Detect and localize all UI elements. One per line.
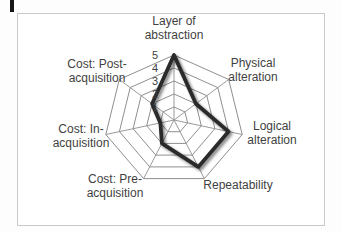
data-series <box>152 55 229 167</box>
axis-label-line: Cost: In- <box>53 123 110 137</box>
tick-label: 2 <box>139 88 158 100</box>
axis-label-cost-in-acquisition: Cost: In- acquisition <box>53 123 110 150</box>
axis-label-line: alteration <box>247 134 296 148</box>
axis-label-repeatability: Repeatability <box>203 179 272 193</box>
axis-label-line: Physical <box>228 57 277 71</box>
data-series-polygon <box>152 55 229 167</box>
tick-label: 1 <box>139 101 158 113</box>
axis-label-cost-pre-acquisition: Cost: Pre- acquisition <box>87 173 144 200</box>
axis-label-line: Repeatability <box>203 179 272 193</box>
page: 54321 Layer of abstraction Physical alte… <box>0 0 341 233</box>
tick-label: 4 <box>139 62 158 74</box>
axis-label-line: Layer of <box>145 15 204 29</box>
axis-label-physical-alteration: Physical alteration <box>228 57 277 84</box>
axis-label-line: abstraction <box>145 29 204 43</box>
axis-label-line: Logical <box>247 120 296 134</box>
axis-label-layer-of-abstraction: Layer of abstraction <box>145 15 204 42</box>
axis-label-line: acquisition <box>87 187 144 201</box>
axis-label-line: alteration <box>228 71 277 85</box>
axis-spoke <box>174 120 204 179</box>
axis-label-line: acquisition <box>53 137 110 151</box>
tick-label: 5 <box>139 49 158 61</box>
axis-label-line: Cost: Pre- <box>87 173 144 187</box>
axis-label-cost-post-acquisition: Cost: Post- acquisition <box>67 58 126 85</box>
axis-label-logical-alteration: Logical alteration <box>247 120 296 147</box>
axis-label-line: Cost: Post- <box>67 58 126 72</box>
axis-label-line: acquisition <box>67 72 126 86</box>
tick-label: 3 <box>139 75 158 87</box>
